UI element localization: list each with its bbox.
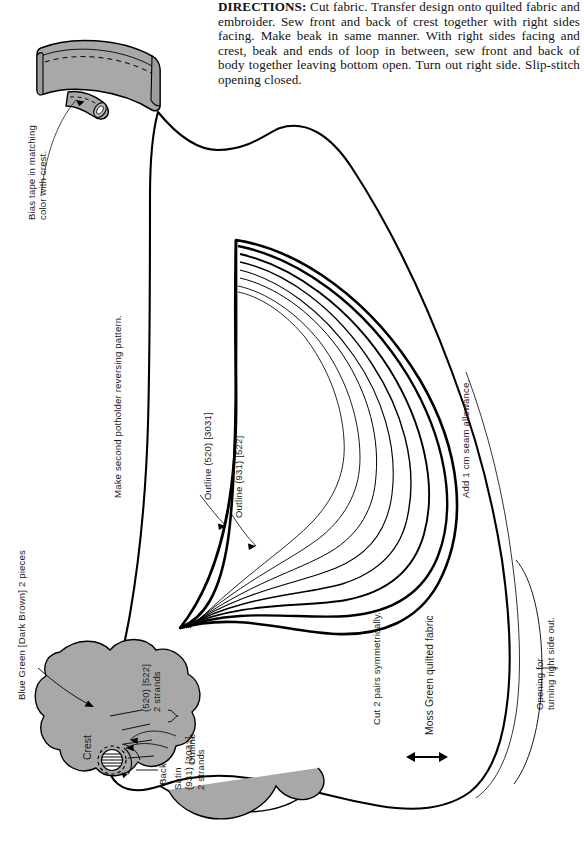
- label-opening: Opening for turning right side out.: [534, 617, 557, 710]
- pattern-page: DIRECTIONS: Cut fabric. Transfer design …: [0, 0, 584, 851]
- label-moss-green-fabric: Moss Green quilted fabric: [424, 615, 435, 735]
- label-outline-931: Outline (931) [522]: [233, 436, 244, 518]
- label-outline-eye: Outline: [186, 734, 197, 765]
- label-cut-2-pairs: Cut 2 pairs symmetrically.: [371, 612, 382, 725]
- label-back: Back: [157, 763, 168, 785]
- label-bias-tape: Bias tape in matching color with crest.: [26, 125, 49, 220]
- label-seam-allowance: Add 1 cm seam allowance.: [460, 380, 471, 498]
- pattern-line-art: [0, 0, 584, 851]
- label-crest: Crest: [82, 735, 93, 760]
- wing-feather-illustration: [180, 240, 457, 634]
- label-strands-520: (520) [522] 2 strands: [140, 664, 163, 712]
- label-blue-green: Blue Green [Dark Brown] 2 pieces: [16, 550, 27, 700]
- label-make-second-potholder: Make second potholder reversing pattern.: [112, 315, 123, 498]
- grain-double-arrow-icon: [406, 752, 448, 762]
- label-outline-520: Outline (520) [3031]: [202, 412, 213, 500]
- rolled-tape-piece-illustration: [66, 91, 109, 119]
